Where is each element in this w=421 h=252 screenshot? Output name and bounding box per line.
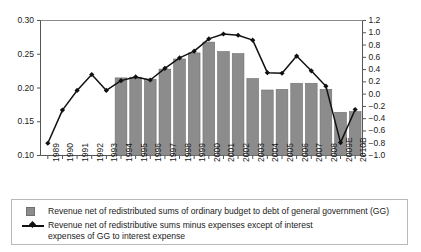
- left-axis-tick-label: 0.20: [8, 84, 34, 93]
- line-marker: [265, 70, 270, 75]
- x-axis-tick-label: 1994: [125, 143, 134, 162]
- plot-area: 0.100.150.200.250.30 −1.0−0.8−0.6−0.4−0.…: [0, 0, 421, 196]
- x-axis-tick-label: 2003: [257, 143, 266, 162]
- x-axis-tick-label: 1999: [198, 143, 207, 162]
- right-axis-tick-label: 1.0: [369, 28, 395, 37]
- right-axis-tick-label: 0.8: [369, 41, 395, 50]
- right-axis-tick-label: 0.0: [369, 90, 395, 99]
- right-axis-tick-label: 1.2: [369, 16, 395, 25]
- bar-1999: [188, 53, 200, 156]
- x-axis-tick-label: 2006: [301, 143, 310, 162]
- left-axis-tick-label: 0.30: [8, 16, 34, 25]
- x-axis-tick-label: 1998: [184, 143, 193, 162]
- legend-line-swatch-icon: [22, 220, 48, 231]
- chart-container: 0.100.150.200.250.30 −1.0−0.8−0.6−0.4−0.…: [0, 0, 421, 252]
- right-axis-tick-label: −0.6: [369, 126, 395, 135]
- left-axis-tick-label: 0.10: [8, 151, 34, 160]
- right-axis-tick-label: 0.4: [369, 65, 395, 74]
- legend-line-label-line1: Revenue net of redistributive sums minus…: [48, 220, 313, 231]
- legend-item-line: Revenue net of redistributive sums minus…: [22, 220, 313, 241]
- x-axis-tick-label: 2000: [213, 143, 222, 162]
- x-axis-tick-label: 1991: [81, 143, 90, 162]
- legend-item-bar: Revenue net of redistributed sums of ord…: [22, 206, 389, 217]
- x-axis-tick-label: 1997: [169, 143, 178, 162]
- line-marker: [353, 107, 358, 112]
- right-axis-tick-label: −0.2: [369, 102, 395, 111]
- bar-1998: [174, 59, 186, 156]
- legend-line-label-line2: expenses of GG to interest expense: [48, 231, 313, 242]
- bar-series: [115, 42, 361, 155]
- right-axis-tick-label: −1.0: [369, 151, 395, 160]
- x-axis-tick-label: 2010B: [359, 137, 368, 162]
- x-axis-tick-label: 2005: [286, 143, 295, 162]
- x-axis-tick-label: 2007: [315, 143, 324, 162]
- right-axis-tick-label: −0.8: [369, 139, 395, 148]
- line-marker: [250, 38, 255, 43]
- x-axis-tick-label: 1995: [140, 143, 149, 162]
- right-axis-tick-label: 0.2: [369, 77, 395, 86]
- left-axis-tick-label: 0.25: [8, 50, 34, 59]
- x-axis-tick-label: 1996: [154, 143, 163, 162]
- x-axis-tick-label: 1990: [66, 143, 75, 162]
- line-marker: [235, 33, 240, 38]
- left-axis-tick-label: 0.15: [8, 117, 34, 126]
- x-axis-tick-label: 2002: [242, 143, 251, 162]
- plot-svg: [0, 0, 421, 196]
- bar-2000: [203, 42, 215, 155]
- legend: Revenue net of redistributed sums of ord…: [11, 199, 408, 245]
- line-marker: [45, 141, 50, 146]
- x-axis-tick-label: 2008: [330, 143, 339, 162]
- x-axis-tick-label: 1993: [110, 143, 119, 162]
- x-axis-tick-label: 2001: [227, 143, 236, 162]
- legend-bar-label: Revenue net of redistributed sums of ord…: [48, 206, 389, 217]
- x-axis-tick-label: 1992: [96, 143, 105, 162]
- bar-2001: [218, 52, 230, 156]
- legend-bar-swatch-icon: [22, 206, 48, 217]
- bar-2002: [232, 54, 244, 156]
- x-axis-tick-label: 2004: [271, 143, 280, 162]
- line-marker: [221, 31, 226, 36]
- right-axis-tick-label: −0.4: [369, 114, 395, 123]
- x-axis-tick-label: 1989: [52, 143, 61, 162]
- x-axis-tick-label: 2009E: [345, 137, 354, 162]
- right-axis-tick-label: 0.6: [369, 53, 395, 62]
